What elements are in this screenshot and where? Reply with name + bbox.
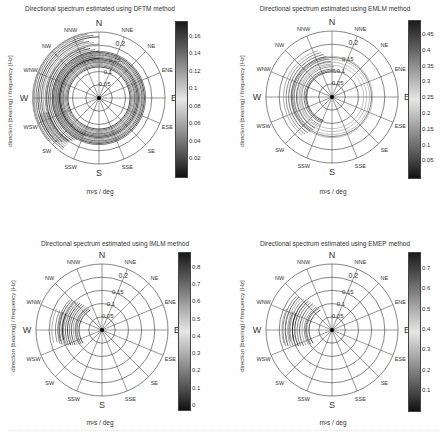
colorbar-gradient <box>175 21 188 178</box>
colorbar-tick-label: 0.45 <box>422 31 434 37</box>
compass-label: SSE <box>122 164 133 170</box>
radial-tick-label: 0.2 <box>116 40 126 47</box>
y-axis-label: direction [bearing] / frequency [Hz] <box>7 36 13 166</box>
compass-label: N <box>96 18 103 28</box>
colorbar-tick-label: 0.1 <box>422 142 430 148</box>
colorbar-gradient <box>408 20 421 179</box>
colorbar-tick-label: 0.15 <box>422 126 434 132</box>
compass-label: NW <box>42 43 52 49</box>
compass-label: WNW <box>26 299 41 305</box>
compass-label: SSE <box>125 396 136 402</box>
compass-label: WNW <box>256 66 271 72</box>
compass-label: ENE <box>395 66 407 72</box>
compass-label: NNE <box>355 259 367 265</box>
colorbar-tick-label: 0.4 <box>422 47 430 53</box>
x-axis-label: m²s / deg <box>0 188 200 195</box>
compass-label: NNE <box>355 26 367 32</box>
radial-tick-label: 0.15 <box>342 56 354 62</box>
x-axis-label: m²s / deg <box>233 419 433 426</box>
compass-label: ESE <box>162 124 173 130</box>
compass-label: ENE <box>165 299 177 305</box>
y-axis-label: direction [bearing] / frequency [Hz] <box>239 261 245 391</box>
compass-label: S <box>329 167 335 177</box>
compass-label: N <box>99 250 106 260</box>
compass-label: SSW <box>297 396 310 402</box>
compass-label: NE <box>151 275 159 281</box>
colorbar-tick-label: 0.5 <box>192 316 200 322</box>
compass-label: ESE <box>165 356 176 362</box>
compass-label: W <box>253 325 262 335</box>
compass-label: W <box>253 92 262 102</box>
colorbar-tick-label: 0.1 <box>192 385 200 391</box>
radial-tick-label: 0.15 <box>112 289 124 295</box>
compass-label: ENE <box>395 299 407 305</box>
y-axis-label: direction [bearing] / frequency [Hz] <box>10 261 16 391</box>
compass-label: SSW <box>297 163 310 169</box>
x-axis-label: m²s / deg <box>233 188 433 195</box>
compass-label: NNE <box>125 259 137 265</box>
compass-label: SE <box>151 380 159 386</box>
compass-label: WSW <box>24 124 39 130</box>
radial-tick-label: 0.1 <box>337 68 346 74</box>
panel-imlm: Directional spectrum estimated using IML… <box>0 215 222 430</box>
figure-caption <box>10 430 440 435</box>
colorbar-gradient <box>408 252 421 412</box>
compass-label: SSE <box>355 396 366 402</box>
colorbar-tick-label: 0 <box>192 402 195 408</box>
compass-label: NNW <box>67 259 81 265</box>
colorbar-tick-label: 0.2 <box>192 367 200 373</box>
colorbar-tick-label: 0.1 <box>189 85 197 91</box>
radial-tick-label: 0.2 <box>119 272 129 279</box>
compass-label: N <box>329 17 336 27</box>
compass-label: WSW <box>257 123 272 129</box>
compass-label: S <box>329 400 335 410</box>
compass-label: S <box>96 168 102 178</box>
radial-tick-label: 0.1 <box>107 301 116 307</box>
panel-dftm: Directional spectrum estimated using DFT… <box>0 0 222 215</box>
compass-label: NW <box>275 275 285 281</box>
compass-label: ESE <box>395 356 406 362</box>
radial-tick-label: 0.1 <box>337 301 346 307</box>
compass-label: WNW <box>256 299 271 305</box>
colorbar-tick-label: 0.4 <box>192 333 200 339</box>
compass-label: W <box>23 325 32 335</box>
colorbar-tick-label: 0.1 <box>422 387 430 393</box>
compass-label: NW <box>45 275 55 281</box>
colorbar-tick-label: 0.25 <box>422 94 434 100</box>
compass-label: N <box>329 250 336 260</box>
colorbar-tick-label: 0.08 <box>189 103 201 109</box>
compass-label: NNE <box>122 27 134 33</box>
polar-grid: NNNENEENEEESESESSESSSWSWWSWWWNWNWNNW0.05… <box>253 17 410 177</box>
contour-lines <box>282 296 321 346</box>
compass-label: SE <box>381 380 389 386</box>
colorbar-tick-label: 0.14 <box>189 50 201 56</box>
compass-label: SSW <box>64 164 77 170</box>
colorbar-tick-label: 0.35 <box>422 63 434 69</box>
contour-lines <box>52 300 91 346</box>
compass-label: SE <box>148 148 156 154</box>
compass-label: SW <box>275 147 285 153</box>
radial-tick-label: 0.05 <box>332 80 344 86</box>
compass-label: SSE <box>355 163 366 169</box>
contour-lines <box>32 34 145 150</box>
radial-tick-label: 0.15 <box>342 289 354 295</box>
colorbar-tick-label: 0.7 <box>422 265 430 271</box>
compass-label: ENE <box>162 67 174 73</box>
compass-label: NNW <box>297 26 311 32</box>
radial-tick-label: 0.2 <box>349 272 359 279</box>
x-axis-label: m²s / deg <box>0 419 200 426</box>
compass-label: SW <box>275 380 285 386</box>
colorbar-tick-label: 0.06 <box>189 120 201 126</box>
colorbar-tick-label: 0.16 <box>189 33 201 39</box>
compass-label: W <box>20 93 29 103</box>
compass-label: NE <box>381 42 389 48</box>
compass-label: NNW <box>64 27 78 33</box>
colorbar-tick-label: 0.6 <box>422 285 430 291</box>
colorbar-tick-label: 0.3 <box>422 78 430 84</box>
compass-label: ESE <box>395 123 406 129</box>
compass-label: SE <box>381 147 389 153</box>
compass-label: NE <box>148 43 156 49</box>
radial-tick-label: 0.05 <box>102 313 114 319</box>
radial-tick-label: 0.2 <box>349 39 359 46</box>
y-axis-label: direction [bearing] / frequency [Hz] <box>239 36 245 166</box>
